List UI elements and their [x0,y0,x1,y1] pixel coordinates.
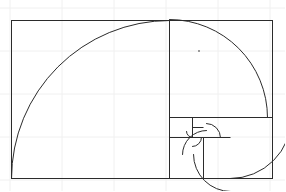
rectangle-subdivisions [12,21,273,179]
arc-4 [194,155,231,192]
outer-golden-rectangle [12,21,273,179]
fibonacci-spiral-figure [0,0,285,191]
speck-mark [198,50,200,52]
stray-speck [198,50,200,52]
arc-7 [193,138,202,147]
arc-1 [12,21,170,179]
arc-5 [183,131,207,155]
fibonacci-spiral-path [12,20,286,192]
background-grid [0,0,285,191]
figure-canvas [0,0,285,191]
arc-3 [231,118,286,179]
